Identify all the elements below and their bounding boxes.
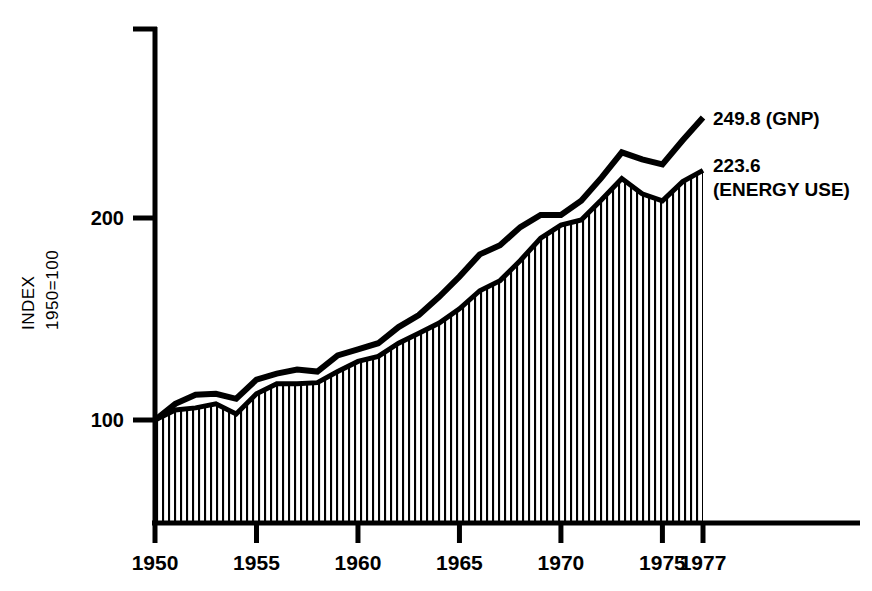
y-tick-label-100: 100	[91, 409, 124, 431]
gnp-annotation-label: 249.8 (GNP)	[713, 108, 820, 129]
y-axis-title-line1: INDEX	[19, 276, 38, 330]
chart-container: 100200 1950195519601965197019751977 INDE…	[0, 0, 872, 591]
y-tick-label-200: 200	[91, 207, 124, 229]
index-line-chart: 100200 1950195519601965197019751977 INDE…	[0, 0, 872, 591]
x-tick-label-1960: 1960	[335, 551, 382, 574]
x-tick-label-1955: 1955	[233, 551, 280, 574]
energy-annotation-value: 223.6	[713, 155, 761, 176]
x-tick-label-1977: 1977	[680, 551, 727, 574]
y-axis-title-line2: 1950=100	[43, 250, 62, 330]
x-tick-label-1965: 1965	[436, 551, 483, 574]
x-tick-label-1950: 1950	[132, 551, 179, 574]
energy-annotation-name: (ENERGY USE)	[713, 179, 850, 200]
x-tick-label-1970: 1970	[538, 551, 585, 574]
